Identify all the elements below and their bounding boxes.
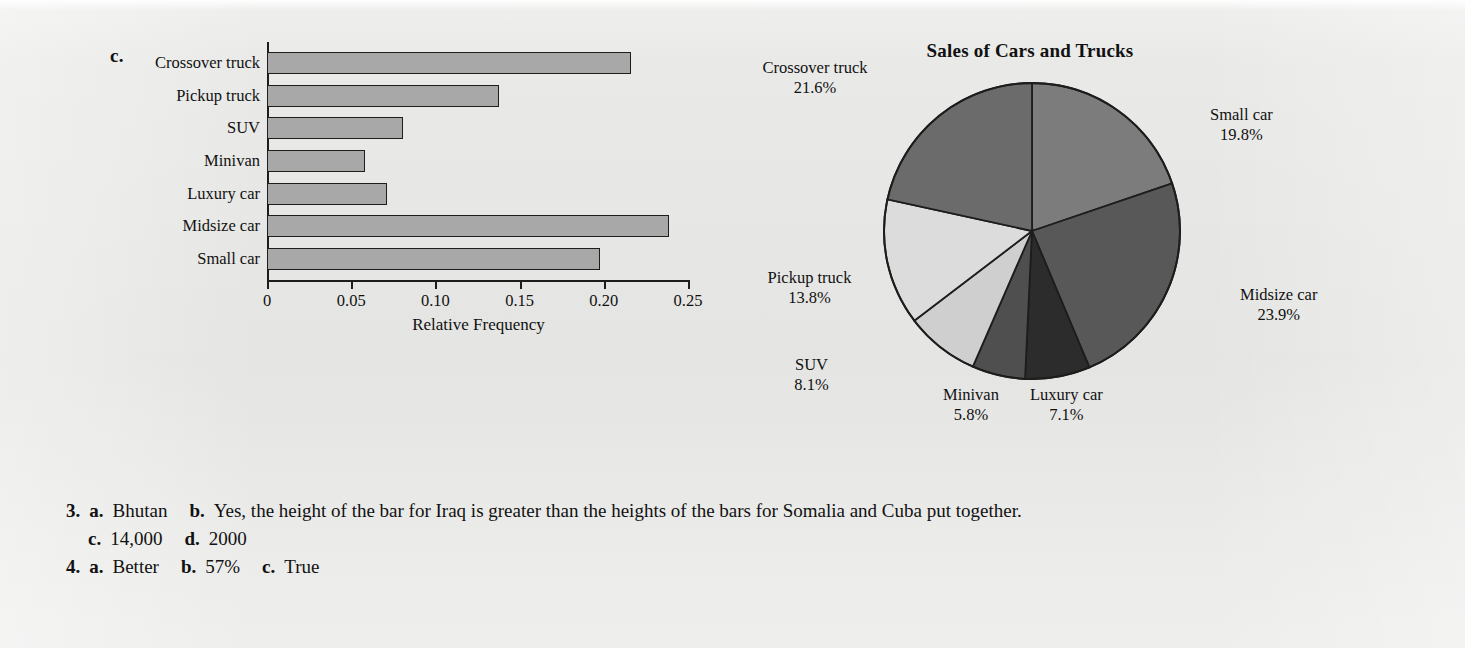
- answer-3b-letter: b.: [189, 500, 204, 521]
- bar-chart-x-tick: [520, 280, 522, 289]
- pie-label-name: Small car: [1210, 105, 1273, 124]
- pie-slice-label: Small car19.8%: [1210, 105, 1273, 145]
- pie-label-percent: 21.6%: [740, 78, 890, 98]
- pie-label-percent: 7.1%: [1030, 405, 1103, 425]
- pie-slice-label: Luxury car7.1%: [1030, 385, 1103, 425]
- answer-line-4: 4.a.Betterb.57%c.True: [66, 553, 1396, 581]
- answer-4a-text: Better: [113, 556, 159, 577]
- bar-row: Minivan: [267, 150, 688, 172]
- pie-label-name: Pickup truck: [768, 268, 852, 287]
- answer-3a-text: Bhutan: [113, 500, 168, 521]
- pie-slice-label: SUV8.1%: [740, 355, 883, 395]
- bar-chart-x-axis-title: Relative Frequency: [267, 315, 690, 335]
- bar-rect: [267, 117, 403, 139]
- pie-label-percent: 19.8%: [1210, 125, 1273, 145]
- pie-chart-title: Sales of Cars and Trucks: [860, 40, 1200, 62]
- bar-category-label: Minivan: [204, 153, 260, 170]
- bar-chart-x-tick-label: 0.15: [505, 291, 534, 311]
- bar-chart-x-tick: [435, 280, 437, 289]
- bar-chart-x-tick: [351, 280, 353, 289]
- pie-chart-graphic: [881, 80, 1183, 382]
- bar-row: Luxury car: [267, 183, 688, 205]
- bar-chart-x-tick: [688, 280, 690, 289]
- bar-row: Crossover truck: [267, 52, 688, 74]
- bar-rect: [267, 183, 387, 205]
- pie-label-name: Crossover truck: [763, 58, 868, 77]
- answer-3a-letter: a.: [89, 500, 103, 521]
- bar-category-label: SUV: [227, 120, 260, 137]
- part-label-c: c.: [110, 45, 124, 67]
- bar-row: Pickup truck: [267, 85, 688, 107]
- answer-number-3: 3.: [66, 500, 80, 521]
- pie-slice-label: Crossover truck21.6%: [740, 58, 890, 98]
- answer-4a-letter: a.: [89, 556, 103, 577]
- textbook-answer-page: c. Crossover truckPickup truckSUVMinivan…: [0, 0, 1465, 648]
- pie-slice-label: Pickup truck13.8%: [740, 268, 879, 308]
- answer-4c-letter: c.: [262, 556, 275, 577]
- bar-category-label: Midsize car: [183, 218, 260, 235]
- bar-chart-x-tick: [267, 280, 269, 289]
- pie-slice-label: Midsize car23.9%: [1240, 285, 1317, 325]
- bar-chart-panel: c. Crossover truckPickup truckSUVMinivan…: [0, 0, 740, 350]
- answer-line-3: 3.a.Bhutanb.Yes, the height of the bar f…: [66, 497, 1396, 525]
- bar-chart-x-tick-label: 0.10: [421, 291, 450, 311]
- pie-label-percent: 13.8%: [740, 288, 879, 308]
- answer-4b-letter: b.: [181, 556, 196, 577]
- bar-category-label: Pickup truck: [176, 88, 260, 105]
- answers-block: 3.a.Bhutanb.Yes, the height of the bar f…: [66, 497, 1396, 581]
- answer-line-3-cont: c.14,000d.2000: [66, 525, 1396, 553]
- answer-3c-text: 14,000: [110, 528, 162, 549]
- bar-rect: [267, 150, 365, 172]
- answer-3d-letter: d.: [184, 528, 199, 549]
- bar-rect: [267, 85, 499, 107]
- bar-chart-plot-area: Crossover truckPickup truckSUVMinivanLux…: [267, 47, 688, 275]
- pie-chart-svg: [881, 80, 1183, 382]
- pie-chart-panel: d. Sales of Cars and Trucks Small car19.…: [740, 0, 1300, 470]
- pie-label-percent: 8.1%: [740, 375, 883, 395]
- bar-rect: [267, 248, 600, 270]
- bar-category-label: Luxury car: [187, 185, 260, 202]
- pie-label-name: Minivan: [943, 385, 999, 404]
- bar-row: Small car: [267, 248, 688, 270]
- pie-label-name: SUV: [795, 355, 828, 374]
- bar-rect: [267, 215, 669, 237]
- pie-label-percent: 5.8%: [943, 405, 999, 425]
- bar-row: Midsize car: [267, 215, 688, 237]
- pie-label-name: Midsize car: [1240, 285, 1317, 304]
- bar-category-label: Small car: [197, 250, 260, 267]
- bar-row: SUV: [267, 117, 688, 139]
- answer-3b-text: Yes, the height of the bar for Iraq is g…: [214, 500, 1022, 521]
- bar-chart-x-tick: [604, 280, 606, 289]
- pie-slice-label: Minivan5.8%: [943, 385, 999, 425]
- pie-label-percent: 23.9%: [1240, 305, 1317, 325]
- answer-4b-text: 57%: [205, 556, 240, 577]
- bar-chart-x-tick-label: 0: [263, 291, 271, 311]
- answer-number-4: 4.: [66, 556, 80, 577]
- answer-3c-letter: c.: [88, 528, 101, 549]
- bar-chart-x-tick-label: 0.25: [674, 291, 703, 311]
- bar-chart-x-axis: [267, 280, 690, 282]
- pie-label-name: Luxury car: [1030, 385, 1103, 404]
- bar-category-label: Crossover truck: [155, 55, 260, 72]
- bar-rect: [267, 52, 631, 74]
- answer-3d-text: 2000: [209, 528, 247, 549]
- bar-chart-x-tick-label: 0.20: [589, 291, 618, 311]
- bar-chart-x-tick-label: 0.05: [337, 291, 366, 311]
- answer-4c-text: True: [284, 556, 319, 577]
